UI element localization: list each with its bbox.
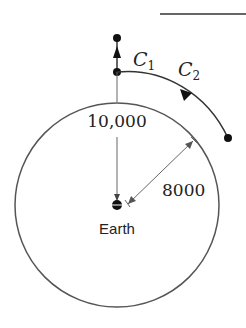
c2-start-dot: [224, 134, 232, 142]
c2-arrow-icon: [180, 89, 192, 101]
altitude-arrow-icon: [114, 194, 120, 201]
c1-arrow-icon: [113, 46, 121, 58]
label-c2: C2: [178, 58, 200, 83]
c1-end-dot: [113, 34, 121, 42]
label-altitude: 10,000: [87, 111, 146, 131]
label-radius: 8000: [162, 180, 205, 200]
orbit-diagram: C1 C2 10,000 8000 Earth: [0, 0, 246, 328]
label-earth: Earth: [99, 220, 135, 237]
label-c1: C1: [133, 48, 155, 73]
